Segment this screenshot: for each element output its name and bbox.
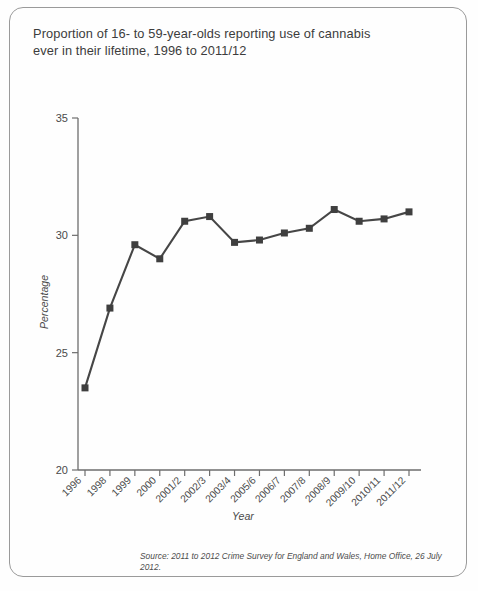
data-point-marker — [131, 241, 138, 248]
x-tick-label: 2006/7 — [253, 474, 283, 504]
x-tick-label: 2002/3 — [178, 474, 208, 504]
data-point-marker — [231, 239, 238, 246]
y-tick-label: 25 — [56, 347, 68, 359]
y-axis-tick-labels: 20253035 — [56, 112, 68, 476]
x-tick-label: 1998 — [85, 474, 109, 498]
x-tick-label: 2005/6 — [228, 474, 258, 504]
cannabis-use-markers — [82, 206, 413, 391]
chart-axes — [78, 118, 421, 470]
line-chart-svg: 20253035 19961998199920002001/22002/3200… — [0, 0, 478, 591]
x-tick-label: 1999 — [109, 474, 133, 498]
figure-page: Proportion of 16- to 59-year-olds report… — [0, 0, 478, 591]
x-tick-label: 2001/2 — [153, 474, 183, 504]
y-tick-label: 30 — [56, 229, 68, 241]
y-axis-ticks — [72, 118, 78, 470]
data-point-marker — [206, 213, 213, 220]
source-note: Source: 2011 to 2012 Crime Survey for En… — [140, 551, 450, 573]
data-point-marker — [281, 229, 288, 236]
x-tick-label: 2003/4 — [203, 474, 233, 504]
y-tick-label: 20 — [56, 464, 68, 476]
chart-plot-area: 20253035 19961998199920002001/22002/3200… — [0, 0, 478, 591]
x-axis-tick-labels: 19961998199920002001/22002/32003/42005/6… — [60, 474, 408, 508]
x-axis-ticks — [85, 470, 409, 476]
x-tick-label: 1996 — [60, 474, 84, 498]
data-point-marker — [356, 218, 363, 225]
data-point-marker — [381, 215, 388, 222]
data-point-marker — [256, 237, 263, 244]
y-tick-label: 35 — [56, 112, 68, 124]
data-point-marker — [181, 218, 188, 225]
x-tick-label: 2007/8 — [278, 474, 308, 504]
data-point-marker — [406, 208, 413, 215]
data-point-marker — [156, 255, 163, 262]
cannabis-use-line — [85, 210, 409, 388]
data-point-marker — [306, 225, 313, 232]
y-axis-title: Percentage — [38, 275, 50, 329]
data-point-marker — [82, 384, 89, 391]
x-axis-title: Year — [232, 510, 254, 522]
data-point-marker — [331, 206, 338, 213]
data-point-marker — [106, 305, 113, 312]
